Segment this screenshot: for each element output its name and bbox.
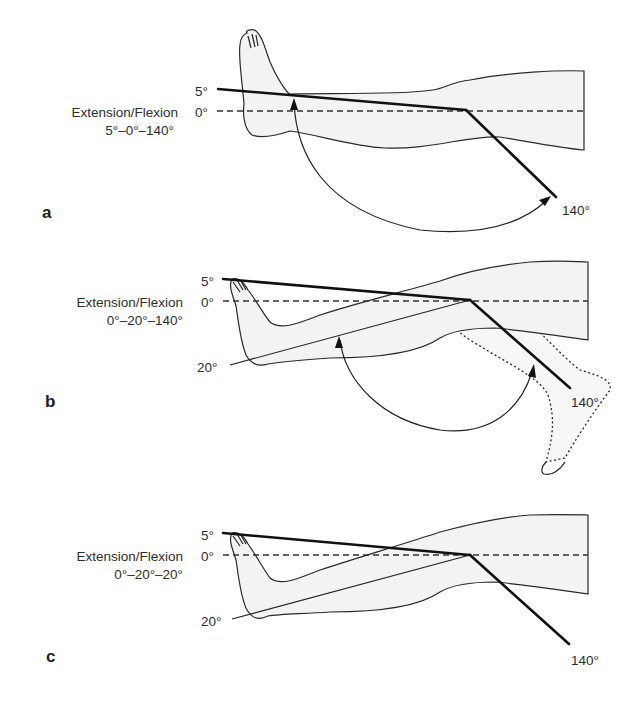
- panel-b-title: Extension/Flexion: [76, 295, 183, 310]
- panel-c-label-140deg: 140°: [571, 653, 599, 668]
- panel-c: 5° 0° 20° 140° Extension/Flexion 0°–20°–…: [46, 515, 599, 668]
- panel-a-label-0deg: 0°: [195, 105, 208, 120]
- panel-c-letter: c: [46, 647, 55, 666]
- panel-a-label-5deg: 5°: [195, 84, 208, 99]
- panel-c-label-20deg: 20°: [201, 614, 221, 629]
- panel-a-notation: 5°–0°–140°: [105, 123, 174, 138]
- panel-b-label-20deg: 20°: [197, 360, 217, 375]
- panel-a-label-140deg: 140°: [562, 203, 590, 218]
- panel-b-notation: 0°–20°–140°: [107, 313, 183, 328]
- panel-b-letter: b: [45, 392, 55, 411]
- panel-b-flexed-foot: [542, 462, 565, 474]
- panel-b-label-5deg: 5°: [201, 274, 214, 289]
- panel-a-leg: [239, 30, 584, 150]
- panel-a-arrowhead-right: [539, 196, 551, 206]
- panel-c-title: Extension/Flexion: [76, 549, 183, 564]
- knee-range-of-motion-diagram: 5° 0° 140° Extension/Flexion 5°–0°–140° …: [0, 0, 641, 702]
- panel-a-title: Extension/Flexion: [71, 105, 178, 120]
- panel-a-letter: a: [42, 203, 52, 222]
- panel-c-label-0deg: 0°: [201, 549, 214, 564]
- panel-b-label-0deg: 0°: [201, 295, 214, 310]
- panel-b-label-140deg: 140°: [571, 395, 599, 410]
- panel-c-notation: 0°–20°–20°: [114, 567, 183, 582]
- panel-b: 5° 0° 20° 140° Extension/Flexion 0°–20°–…: [45, 261, 610, 474]
- panel-a: 5° 0° 140° Extension/Flexion 5°–0°–140° …: [42, 30, 590, 232]
- panel-c-label-5deg: 5°: [201, 528, 214, 543]
- panel-c-leg: [231, 515, 588, 619]
